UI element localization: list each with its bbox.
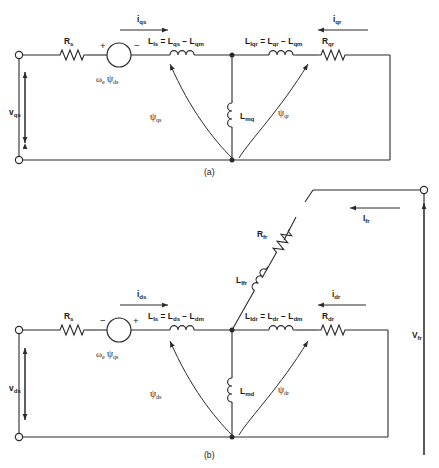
source-a-label: ωe ψds <box>96 73 119 85</box>
circuit-b: vds Rs − + ωe ψqs ids Lls = Lds − Ldm Lm… <box>9 186 428 460</box>
flux-psi-ds-label: ψds <box>150 388 162 400</box>
port-voltage-field-label: Vfr <box>412 330 423 341</box>
terminal-a-bottom <box>15 156 22 163</box>
resistor-rs-b-symbol <box>57 325 87 335</box>
source-b-sign-right: + <box>133 315 139 326</box>
circuit-a-wires <box>19 55 390 160</box>
current-ids-label: ids <box>137 289 147 300</box>
inductor-lldr-label: Lldr = Ldr − Ldm <box>245 311 303 322</box>
source-b-label: ωe ψqs <box>96 348 119 360</box>
inductor-lls-b-symbol <box>167 326 197 330</box>
current-iqs-label: iqs <box>137 14 147 25</box>
circuit-b-wires <box>19 190 424 455</box>
resistor-rs-a-symbol <box>57 50 87 60</box>
flux-psi-qr-arrow <box>239 64 308 158</box>
resistor-rqr-symbol <box>318 50 348 60</box>
resistor-rs-b-label: Rs <box>64 311 74 322</box>
flux-psi-qs-arrow <box>170 64 232 158</box>
terminal-b-bottom <box>15 433 22 440</box>
current-ifr-label: Ifr <box>363 213 370 224</box>
flux-psi-qr-label: ψqr <box>278 107 289 119</box>
terminal-field <box>420 186 427 193</box>
inductor-lls-b-label: Lls = Lds − Ldm <box>148 311 204 322</box>
flux-psi-qs-label: ψqs <box>150 111 162 123</box>
inductor-lmd-label: Lmd <box>240 386 255 397</box>
inductor-lls-a-symbol <box>167 51 197 55</box>
inductor-llqr-label: Llqr = Lqr − Lqm <box>245 36 303 47</box>
figure-equivalent-circuits: vqs Rs + − ωe ψds iqs Lls = Lqs − Lqm Lm… <box>0 0 439 468</box>
inductor-llfr-symbol <box>249 265 268 293</box>
caption-a: (a) <box>204 167 215 177</box>
resistor-rs-a-label: Rs <box>64 36 74 47</box>
resistor-rdr-label: Rdr <box>322 311 335 322</box>
current-idr-label: idr <box>332 289 341 300</box>
inductor-lmq-symbol <box>228 100 232 130</box>
source-a-sign-right: − <box>134 40 140 51</box>
inductor-lldr-symbol <box>266 326 296 330</box>
flux-psi-dr-arrow <box>239 341 308 435</box>
resistor-rfr-label: Rfr <box>257 229 268 240</box>
voltage-source-a <box>107 43 131 67</box>
inductor-lls-a-label: Lls = Lqs − Lqm <box>148 36 204 47</box>
voltage-source-b <box>107 318 131 342</box>
junction-b-top <box>230 328 235 333</box>
inductor-llqr-symbol <box>266 51 296 55</box>
current-iqr-label: iqr <box>333 14 342 25</box>
caption-b: (b) <box>204 450 215 460</box>
circuit-a: vqs Rs + − ωe ψds iqs Lls = Lqs − Lqm Lm… <box>9 14 390 177</box>
resistor-rdr-symbol <box>318 325 348 335</box>
terminal-b-top <box>15 326 22 333</box>
source-a-sign-left: + <box>100 40 106 51</box>
junction-a-top <box>230 53 235 58</box>
junction-a-bottom <box>230 158 235 163</box>
source-b-sign-left: − <box>100 315 106 326</box>
circuit-canvas: vqs Rs + − ωe ψds iqs Lls = Lqs − Lqm Lm… <box>0 0 439 468</box>
flux-psi-dr-label: ψdr <box>278 384 289 396</box>
terminal-a-top <box>15 51 22 58</box>
inductor-lmq-label: Lmq <box>240 111 255 122</box>
resistor-rfr-symbol <box>271 226 294 257</box>
junction-b-bottom <box>230 435 235 440</box>
resistor-rqr-label: Rqr <box>322 36 335 47</box>
flux-psi-ds-arrow <box>170 341 232 435</box>
inductor-llfr-label: Llfr <box>236 275 248 286</box>
inductor-lmd-symbol <box>228 375 232 405</box>
